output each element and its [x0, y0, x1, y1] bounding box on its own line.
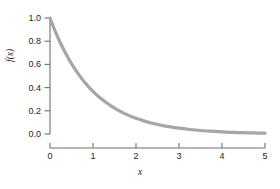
y-tick-label-0: 0.0: [0, 130, 41, 139]
x-tick-label-0: 0: [47, 152, 52, 161]
data-curve-exponential-decay: [50, 18, 265, 133]
x-tick-label-5: 5: [262, 152, 267, 161]
y-axis-ticks: [45, 18, 51, 134]
x-axis-ticks: [50, 143, 265, 148]
x-tick-label-2: 2: [133, 152, 138, 161]
y-axis-title: f(x): [6, 49, 16, 62]
y-tick-label-5: 1.0: [0, 14, 41, 23]
plot-canvas: [0, 0, 280, 189]
x-tick-label-3: 3: [176, 152, 181, 161]
chart-figure: 1.0 0.8 0.6 0.4 0.2 0.0 0 1 2 3 4 5 f(x)…: [0, 0, 280, 189]
y-tick-label-1: 0.2: [0, 106, 41, 115]
y-tick-label-4: 0.8: [0, 37, 41, 46]
x-tick-label-1: 1: [90, 152, 95, 161]
y-tick-label-2: 0.4: [0, 83, 41, 92]
x-axis-title: x: [0, 168, 280, 178]
x-tick-label-4: 4: [219, 152, 224, 161]
